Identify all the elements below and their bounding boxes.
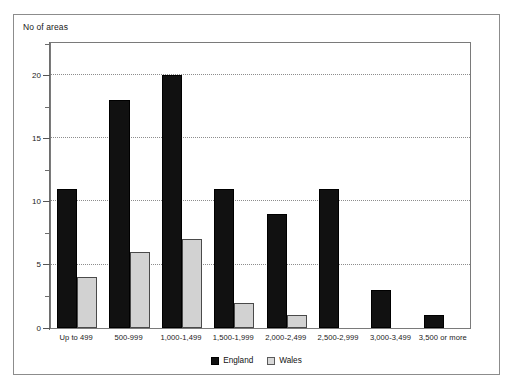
y-tick-label-5: 5 (14, 260, 41, 269)
y-tick-label-20: 20 (14, 71, 41, 80)
x-axis-label-7: 3,500 or more (419, 333, 467, 342)
bar-wales-0 (77, 277, 97, 328)
bar-series-container (51, 43, 470, 328)
y-tick-20 (43, 75, 50, 76)
bar-england-2 (162, 75, 182, 328)
x-axis-label-6: 3,000-3,499 (370, 333, 411, 342)
x-axis-label-5: 2,500-2,999 (318, 333, 359, 342)
bar-england-0 (57, 189, 77, 328)
chart-legend: EnglandWales (14, 356, 499, 365)
y-tick-label-15: 15 (14, 134, 41, 143)
y-tick-label-10: 10 (14, 197, 41, 206)
x-axis-label-0: Up to 499 (59, 333, 92, 342)
y-tick-0 (43, 328, 50, 329)
bar-wales-4 (287, 315, 307, 328)
plot-area (50, 42, 471, 329)
y-tick-label-0: 0 (14, 324, 41, 333)
legend-label-wales: Wales (279, 356, 301, 365)
legend-item-england[interactable]: England (211, 356, 253, 365)
x-axis-label-3: 1,500-1,999 (213, 333, 254, 342)
bar-england-4 (267, 214, 287, 328)
bar-england-3 (214, 189, 234, 328)
light-grey-square-swatch (267, 357, 275, 365)
bar-wales-3 (234, 303, 254, 328)
y-tick-10 (43, 201, 50, 202)
legend-label-england: England (223, 356, 253, 365)
x-axis-label-1: 500-999 (114, 333, 142, 342)
y-tick-5 (43, 264, 50, 265)
bar-england-6 (371, 290, 391, 328)
legend-item-wales[interactable]: Wales (267, 356, 301, 365)
x-axis-label-4: 2,000-2,499 (265, 333, 306, 342)
bar-england-7 (424, 315, 444, 328)
black-square-swatch (211, 357, 219, 365)
bar-england-1 (109, 100, 129, 328)
x-axis-label-2: 1,000-1,499 (160, 333, 201, 342)
bar-wales-1 (130, 252, 150, 328)
chart-figure: No of areas 0 5 10 15 20 Up to 499500-99… (13, 14, 500, 375)
y-tick-15 (43, 138, 50, 139)
y-axis-title: No of areas (23, 22, 68, 32)
bar-england-5 (319, 189, 339, 328)
bar-wales-2 (182, 239, 202, 328)
